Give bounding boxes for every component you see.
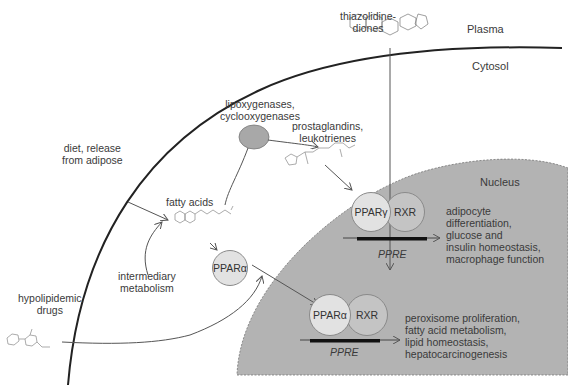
alpha-outcomes: peroxisome proliferation,fatty acid meta… <box>405 312 520 360</box>
ppre-bar-top <box>357 237 427 241</box>
cytosol-label: Cytosol <box>472 60 509 72</box>
ppre-label-top: PPRE <box>378 248 407 260</box>
ppre-label-bottom: PPRE <box>330 346 359 358</box>
gamma-outcomes: adipocytedifferentiation,glucose andinsu… <box>446 205 544 265</box>
ppre-bar-bottom <box>310 339 380 343</box>
ppar-alpha-free: PPARα <box>212 250 248 286</box>
prostaglandins-label: prostaglandins,leukotrienes <box>292 120 363 144</box>
intermediary-metabolism-label: intermediarymetabolism <box>118 270 176 294</box>
ppar-gamma: PPARγ <box>351 192 391 232</box>
nucleus-label: Nucleus <box>480 176 520 188</box>
ppar-alpha-bound: PPARα <box>309 294 351 336</box>
enzyme-ellipse <box>239 125 269 149</box>
hypolipidemic-drugs-label: hypolipidemicdrugs <box>18 292 82 316</box>
hypolipidemic-drug-structure-icon <box>7 329 50 347</box>
plasma-label: Plasma <box>467 23 504 35</box>
diet-label: diet, releasefrom adipose <box>62 142 123 166</box>
prostaglandin-structure-icon <box>285 143 355 165</box>
thiazolidinediones-label: thiazolidine-diones <box>340 10 396 34</box>
rxr-top: RXR <box>385 192 425 232</box>
fatty-acid-structure-icon <box>175 206 233 223</box>
lipoxygenases-label: lipoxygenases,cyclooxygenases <box>220 98 300 122</box>
fatty-acids-label: fatty acids <box>166 196 213 208</box>
rxr-bottom: RXR <box>346 294 388 336</box>
